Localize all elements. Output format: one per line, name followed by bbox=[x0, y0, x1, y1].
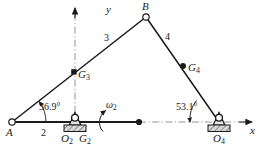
angle-label-theta2: 36.9° bbox=[39, 102, 61, 112]
link-label-4: 4 bbox=[165, 32, 170, 42]
link-label-2: 2 bbox=[41, 128, 46, 138]
joint-B bbox=[143, 14, 149, 20]
y-axis-label: y bbox=[106, 4, 111, 15]
mass-center-label-G4: G4 bbox=[188, 62, 200, 75]
joint-A bbox=[9, 119, 15, 125]
joint-label-O4: O4 bbox=[213, 133, 225, 146]
x-axis-label: x bbox=[250, 125, 255, 136]
mass-center-label-G2: G2 bbox=[79, 133, 91, 146]
joint-label-O2: O2 bbox=[61, 133, 73, 146]
joint-label-A: A bbox=[6, 127, 13, 138]
omega2-arrow bbox=[99, 111, 105, 132]
fourbar-linkage-figure: y x A B O2 O4 G2 G3 G4 2 3 4 36.9° 53.1°… bbox=[0, 0, 260, 149]
omega2-label: ω2 bbox=[106, 100, 117, 112]
angle-label-theta4: 53.1° bbox=[176, 102, 198, 112]
mass-center-label-G3: G3 bbox=[78, 69, 90, 82]
link-label-3: 3 bbox=[104, 33, 109, 43]
linkage-drawing bbox=[0, 0, 260, 149]
mass-center-G4 bbox=[180, 63, 186, 69]
mass-center-G3 bbox=[71, 69, 76, 74]
joint-label-B: B bbox=[142, 1, 149, 12]
